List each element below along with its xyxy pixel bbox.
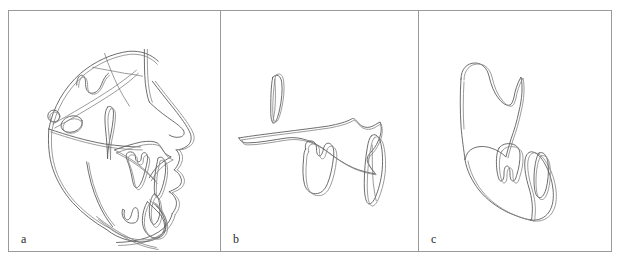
mandibular-symphysis [142, 202, 165, 239]
figure-frame: a b [8, 10, 612, 252]
cranial-diagonal-line [105, 53, 130, 106]
cranial-base-outline-2 [52, 54, 158, 131]
upper-molar-outline-2 [306, 144, 337, 196]
panel-a-tracing-svg [9, 11, 220, 251]
panel-c-mandibular-superimposition: c [419, 11, 611, 251]
panel-a-full-skull-superimposition: a [9, 11, 221, 251]
mandible-ramus-anterior-2 [463, 82, 464, 129]
panel-c-tracing-svg [419, 11, 611, 251]
maxilla-outline [115, 141, 172, 177]
upper-incisor-outline [271, 75, 282, 123]
maxilla-outline-1 [239, 119, 381, 174]
upper-lip-outline [169, 170, 181, 192]
figure-root: a b [0, 0, 621, 265]
pterygoid-plate-outline [364, 135, 382, 204]
panel-b-tracing-svg [221, 11, 418, 251]
nasal-profile-1 [149, 102, 184, 137]
panel-a-label: a [21, 233, 26, 245]
chin-soft-tissue-2 [118, 215, 175, 246]
mandible-outline-2 [464, 64, 524, 158]
panel-c-label: c [431, 233, 436, 245]
orbit-outline [59, 113, 85, 135]
lower-molar-outline [122, 208, 138, 224]
pterygomaxillary-fissure-2 [108, 108, 116, 159]
subnasale-outline [174, 150, 179, 170]
panel-b-label: b [233, 233, 239, 245]
ramus-posterior-border-2 [89, 163, 115, 226]
cranial-floor-line-2 [51, 132, 143, 150]
posterior-cranial-border [48, 129, 106, 230]
mandible-body-lower-border [465, 160, 531, 220]
nose-soft-tissue-1 [152, 81, 191, 150]
nose-soft-tissue-2 [155, 81, 194, 150]
pterygomaxillary-fissure [105, 106, 114, 159]
mandible-outline-1 [460, 63, 522, 160]
panel-b-maxillary-superimposition: b [221, 11, 419, 251]
mandible-body-lower-border-2 [468, 161, 534, 221]
